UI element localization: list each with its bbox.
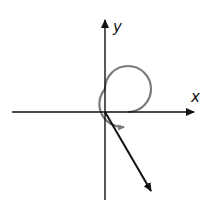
terminal-ray (105, 112, 151, 191)
x-axis-label: x (190, 88, 200, 106)
angle-diagram: y x (0, 0, 206, 201)
rotation-arc (99, 66, 151, 127)
y-axis-label: y (112, 18, 123, 36)
